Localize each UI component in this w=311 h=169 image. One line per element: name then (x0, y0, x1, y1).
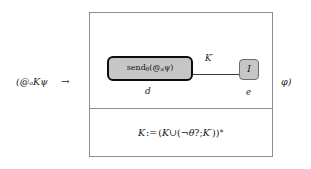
consequent-text: φ) (281, 76, 291, 87)
node-send-sublabel: d (145, 86, 151, 96)
implication-arrow: → (61, 76, 69, 87)
edge-label-k-prime: K′ (205, 53, 213, 63)
consequent-formula: φ) (281, 76, 291, 87)
assignment-pane: K := (K∪(¬θ?;K′))∗ (89, 108, 273, 157)
node-i-sublabel: e (246, 87, 251, 97)
edge-send-to-i (192, 74, 240, 75)
node-send-label: sendθ(@aψ) (127, 64, 174, 73)
node-send: sendθ(@aψ) (107, 56, 193, 81)
node-i-sublabel-text: e (246, 87, 251, 97)
implication-arrow-glyph: → (61, 76, 69, 87)
graph-pane: K′ sendθ(@aψ) d I e (89, 12, 273, 108)
edge-label-text: K′ (205, 53, 213, 63)
antecedent-text: (@ₐKψ (16, 76, 48, 87)
node-send-sublabel-text: d (145, 86, 151, 96)
antecedent-formula: (@ₐKψ (16, 76, 48, 87)
node-i: I (239, 59, 259, 80)
logic-diagram-figure: (@ₐKψ → K′ sendθ(@aψ) d I e K := (K∪(¬θ? (0, 0, 311, 169)
assignment-formula: K := (K∪(¬θ?;K′))∗ (138, 127, 224, 138)
node-i-label: I (247, 65, 251, 74)
